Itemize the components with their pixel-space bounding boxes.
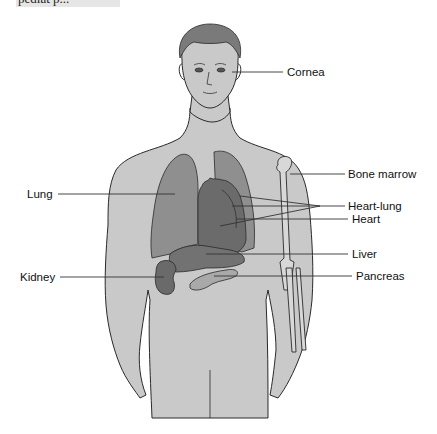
label-kidney: Kidney: [20, 271, 55, 283]
label-heart: Heart: [352, 213, 380, 225]
label-cornea: Cornea: [287, 66, 325, 78]
label-liver: Liver: [352, 248, 377, 260]
label-pancreas: Pancreas: [356, 270, 405, 282]
label-lung: Lung: [27, 188, 53, 200]
label-bone-marrow: Bone marrow: [348, 168, 416, 180]
label-heart-lung: Heart-lung: [348, 200, 402, 212]
